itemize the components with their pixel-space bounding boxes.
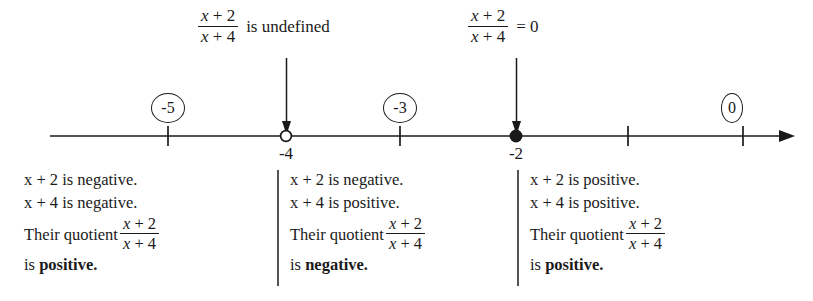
quotient-result-line: is positive. bbox=[530, 253, 780, 276]
column-divider bbox=[277, 170, 279, 286]
analysis-column-middle: x + 2 is negative. x + 4 is positive. Th… bbox=[290, 168, 508, 277]
quotient-statement: Their quotient x + 2 x + 4 bbox=[24, 216, 269, 253]
axis-value-minus-four: -4 bbox=[266, 144, 306, 164]
result-sign-word: positive. bbox=[39, 255, 97, 274]
quotient-statement: Their quotient x + 2 x + 4 bbox=[290, 216, 508, 253]
analysis-column-right: x + 2 is positive. x + 4 is positive. Th… bbox=[530, 168, 780, 277]
denominator-sign-text: x + 4 is negative. bbox=[24, 191, 269, 214]
denominator-sign-text: x + 4 is positive. bbox=[530, 191, 780, 214]
fraction-numerator: x + 2 bbox=[386, 215, 425, 233]
region-label-minus-three: -3 bbox=[383, 93, 417, 123]
fraction-numerator: x + 2 bbox=[120, 215, 159, 233]
axis-arrowhead-icon bbox=[779, 130, 795, 142]
region-label-minus-five: -5 bbox=[151, 93, 185, 123]
region-label-zero: 0 bbox=[721, 93, 743, 123]
fraction-expression: x + 2 x + 4 bbox=[626, 215, 665, 252]
fraction-denominator: x + 4 bbox=[120, 233, 159, 252]
quotient-result-line: is positive. bbox=[24, 253, 269, 276]
fraction-numerator: x + 2 bbox=[626, 215, 665, 233]
sign-analysis-panel: x + 2 is negative. x + 4 is negative. Th… bbox=[0, 168, 813, 301]
numerator-sign-text: x + 2 is positive. bbox=[530, 168, 780, 191]
numerator-sign-text: x + 2 is negative. bbox=[290, 168, 508, 191]
open-point-minus-four bbox=[281, 131, 292, 142]
denominator-sign-text: x + 4 is positive. bbox=[290, 191, 508, 214]
closed-point-minus-two bbox=[510, 130, 521, 141]
is-word: is bbox=[290, 255, 301, 274]
quotient-lead-text: Their quotient bbox=[290, 223, 384, 246]
is-word: is bbox=[24, 255, 35, 274]
quotient-result-line: is negative. bbox=[290, 253, 508, 276]
result-sign-word: negative. bbox=[305, 255, 368, 274]
fraction-denominator: x + 4 bbox=[386, 233, 425, 252]
numerator-sign-text: x + 2 is negative. bbox=[24, 168, 269, 191]
fraction-denominator: x + 4 bbox=[626, 233, 665, 252]
result-sign-word: positive. bbox=[545, 255, 603, 274]
quotient-lead-text: Their quotient bbox=[24, 223, 118, 246]
fraction-expression: x + 2 x + 4 bbox=[120, 215, 159, 252]
is-word: is bbox=[530, 255, 541, 274]
number-line-axis bbox=[0, 0, 813, 170]
fraction-expression: x + 2 x + 4 bbox=[386, 215, 425, 252]
number-line-sign-chart: x + 2 x + 4 is undefined x + 2 x + 4 = 0 bbox=[0, 0, 813, 301]
quotient-lead-text: Their quotient bbox=[530, 223, 624, 246]
analysis-column-left: x + 2 is negative. x + 4 is negative. Th… bbox=[24, 168, 269, 277]
quotient-statement: Their quotient x + 2 x + 4 bbox=[530, 216, 780, 253]
column-divider bbox=[517, 170, 519, 286]
axis-value-minus-two: -2 bbox=[496, 144, 536, 164]
